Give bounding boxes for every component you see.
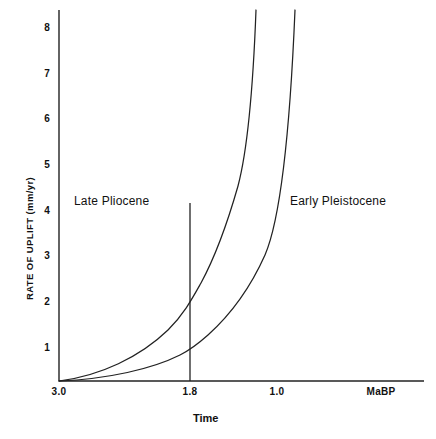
annotation-early-pleistocene: Early Pleistocene [290, 194, 386, 208]
y-tick-5: 5 [32, 159, 50, 170]
y-tick-7: 7 [32, 68, 50, 79]
y-axis-title: RATE OF UPLIFT (mm/yr) [24, 177, 35, 300]
y-tick-6: 6 [32, 113, 50, 124]
x-tick-3-0: 3.0 [42, 386, 76, 397]
x-unit-label-mabp: MaBP [358, 386, 404, 397]
y-tick-1: 1 [32, 342, 50, 353]
x-tick-1-0: 1.0 [260, 386, 294, 397]
chart-canvas [0, 0, 436, 439]
annotation-late-pliocene: Late Pliocene [74, 194, 149, 208]
uplift-rate-chart: 8 7 6 5 4 3 2 1 3.0 1.8 1.0 MaBP RATE OF… [0, 0, 436, 439]
y-tick-8: 8 [32, 22, 50, 33]
x-axis-title: Time [193, 412, 218, 424]
x-tick-1-8: 1.8 [173, 386, 207, 397]
